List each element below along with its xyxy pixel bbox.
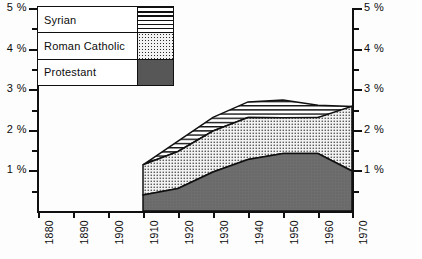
legend-label-roman-catholic: Roman Catholic <box>38 33 137 58</box>
y-tick-left-2p5 <box>32 110 37 112</box>
y-tick-right-1 <box>354 170 362 172</box>
x-axis-label-1940: 1940 <box>254 220 265 245</box>
x-axis-label-1920: 1920 <box>184 220 195 245</box>
y-tick-left-2 <box>29 130 37 132</box>
y-axis-left-label-3: 3 % <box>1 83 27 94</box>
x-tick-1880 <box>38 213 40 218</box>
stacked-area-chart: 5 % 4 % 3 % 2 % 1 % 5 % 4 % 3 % 2 % 1 % … <box>0 0 422 259</box>
y-tick-right-1p5 <box>354 150 359 152</box>
y-axis-left-label-5: 5 % <box>1 2 27 13</box>
y-axis-right-label-1: 1 % <box>364 164 384 175</box>
y-tick-right-3 <box>354 89 362 91</box>
x-axis-line <box>37 211 354 213</box>
y-tick-right-5 <box>354 8 362 10</box>
y-tick-right-3p5 <box>354 69 359 71</box>
x-axis-label-1890: 1890 <box>79 220 90 245</box>
legend-swatch-roman-catholic-icon <box>137 33 173 58</box>
y-tick-right-0p5 <box>354 191 359 193</box>
y-tick-right-4p5 <box>354 28 359 30</box>
x-axis-label-1960: 1960 <box>324 220 335 245</box>
x-tick-1940 <box>248 213 250 218</box>
y-tick-right-2p5 <box>354 110 359 112</box>
chart-legend: Syrian Roman Catholic Protestant <box>37 6 174 86</box>
y-tick-right-4 <box>354 49 362 51</box>
y-axis-left-label-1: 1 % <box>1 164 27 175</box>
x-tick-1890 <box>73 213 75 218</box>
x-tick-1930 <box>213 213 215 218</box>
x-tick-1950 <box>283 213 285 218</box>
legend-label-syrian: Syrian <box>38 7 137 32</box>
y-tick-left-4 <box>29 49 37 51</box>
y-tick-left-5 <box>29 8 37 10</box>
legend-swatch-protestant-icon <box>137 60 173 85</box>
y-axis-left-label-4: 4 % <box>1 43 27 54</box>
y-tick-left-0p5 <box>32 191 37 193</box>
y-tick-right-2 <box>354 130 362 132</box>
y-axis-right-label-5: 5 % <box>364 2 384 13</box>
x-axis-label-1930: 1930 <box>219 220 230 245</box>
y-tick-left-3 <box>29 89 37 91</box>
x-tick-1960 <box>318 213 320 218</box>
y-axis-right-label-2: 2 % <box>364 124 384 135</box>
x-tick-1900 <box>108 213 110 218</box>
y-tick-left-1 <box>29 170 37 172</box>
legend-swatch-syrian-icon <box>137 7 173 32</box>
x-tick-1910 <box>143 213 145 218</box>
x-axis-label-1900: 1900 <box>114 220 125 245</box>
x-axis-label-1970: 1970 <box>358 220 369 245</box>
y-axis-left-label-2: 2 % <box>1 124 27 135</box>
legend-item-roman-catholic: Roman Catholic <box>38 33 173 59</box>
x-tick-1920 <box>178 213 180 218</box>
legend-item-syrian: Syrian <box>38 7 173 33</box>
x-tick-1970 <box>352 213 354 218</box>
x-axis-label-1910: 1910 <box>149 220 160 245</box>
legend-item-protestant: Protestant <box>38 60 173 85</box>
y-axis-right-label-3: 3 % <box>364 83 384 94</box>
y-tick-left-1p5 <box>32 150 37 152</box>
legend-label-protestant: Protestant <box>38 60 137 85</box>
x-axis-label-1950: 1950 <box>289 220 300 245</box>
y-axis-right-label-4: 4 % <box>364 43 384 54</box>
x-axis-label-1880: 1880 <box>44 220 55 245</box>
